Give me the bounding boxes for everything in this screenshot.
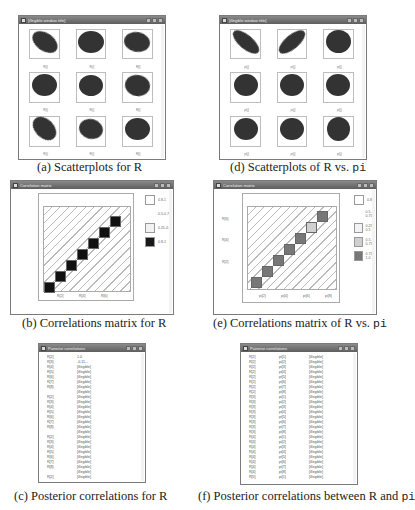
close-button[interactable]: [166, 183, 171, 188]
titlebar: Correlation matrix: [214, 181, 376, 189]
minimize-button[interactable]: [338, 346, 343, 351]
minimize-button[interactable]: [154, 183, 159, 188]
list-cell: [illegible]: [77, 475, 117, 480]
plot-frame: [76, 29, 107, 60]
scatter-points: [234, 118, 258, 140]
scatter-plot: R[i]: [67, 70, 113, 114]
matrix-cells: [43, 206, 131, 292]
x-tick: pi[6]: [303, 294, 310, 298]
maximize-button[interactable]: [344, 346, 349, 351]
legend-swatch: [145, 209, 155, 219]
scatter-points: [123, 29, 152, 53]
minimize-button[interactable]: [357, 183, 362, 188]
legend-swatch: [354, 209, 363, 219]
y-tick: R[4]: [222, 238, 228, 242]
scatterplots-window-a: [illegible window title] R[i]R[i]R[i]R[i…: [18, 15, 166, 160]
scrollbar[interactable]: [161, 25, 164, 158]
close-button[interactable]: [350, 346, 355, 351]
plot-frame: [277, 72, 308, 103]
legend-item: 0.5-0.75: [145, 209, 171, 219]
caption-e: (e) Correlations matrix of R vs. pi: [213, 316, 387, 331]
correlation-matrix-window-e: Correlation matrix pi[2] pi[4] pi[6] pi[…: [213, 180, 377, 315]
scatterplots-window-d: [illegible window title] pi[j]pi[j]pi[j]…: [219, 15, 367, 160]
maximize-button[interactable]: [363, 183, 368, 188]
caption-c: (c) Posterior correlations for R: [14, 489, 167, 504]
scatter-plot: pi[j]: [268, 113, 314, 157]
minimize-button[interactable]: [347, 18, 352, 23]
diagonal-cell: [251, 277, 262, 288]
diagonal-cell: [88, 238, 99, 249]
legend-swatch: [354, 237, 363, 247]
scatter-grid: R[i]R[i]R[i]R[i]R[i]R[i]R[i]R[i]R[i]: [21, 26, 160, 157]
legend-swatch: [354, 195, 364, 205]
matrix-plot-area: pi[2] pi[4] pi[6] pi[8]: [242, 193, 340, 303]
legend-label: 0.8-1: [158, 240, 166, 244]
maximize-button[interactable]: [152, 18, 157, 23]
scrollbar[interactable]: [362, 25, 365, 158]
diagonal-cell: [317, 211, 328, 222]
diagonal-cell: [99, 227, 110, 238]
scrollbar[interactable]: [169, 190, 172, 313]
legend-swatch: [354, 223, 363, 233]
close-button[interactable]: [138, 346, 143, 351]
matrix-cells: [247, 206, 337, 290]
caption-var: R: [134, 160, 142, 174]
maximize-button[interactable]: [353, 18, 358, 23]
x-axis-label: R[i]: [136, 108, 141, 112]
minimize-button[interactable]: [146, 18, 151, 23]
plot-frame: [76, 72, 107, 103]
scatter-plot: R[i]: [21, 70, 67, 114]
scrollbar[interactable]: [353, 353, 356, 483]
legend-swatch: [145, 223, 155, 233]
titlebar: [illegible window title]: [19, 16, 165, 24]
x-axis-label: R[i]: [43, 65, 48, 69]
plot-frame: [230, 72, 261, 103]
scatter-points: [28, 113, 61, 146]
plot-frame: [323, 116, 354, 147]
x-axis-label: pi[j]: [291, 65, 296, 69]
diagonal-cell: [44, 282, 55, 293]
x-axis-label: pi[j]: [337, 65, 342, 69]
maximize-button[interactable]: [132, 346, 137, 351]
scrollbar[interactable]: [141, 353, 144, 481]
minimize-button[interactable]: [126, 346, 131, 351]
x-axis-label: R[i]: [90, 152, 95, 156]
scatter-points: [326, 74, 350, 96]
diagonal-cell: [77, 249, 88, 260]
scatter-plot: pi[j]: [222, 113, 268, 157]
scatter-plot: R[i]: [114, 26, 160, 70]
legend-swatch: [145, 237, 155, 247]
close-button[interactable]: [158, 18, 163, 23]
caption-b: (b) Correlations matrix for R: [22, 316, 166, 331]
x-axis-label: pi[j]: [337, 108, 342, 112]
list-cell: R[2]: [41, 475, 77, 480]
plot-frame: [277, 29, 308, 60]
plot-frame: [230, 29, 261, 60]
diagonal-cell: [55, 271, 66, 282]
caption-a: (a) Scatterplots for R: [37, 160, 142, 175]
scatter-points: [77, 116, 105, 142]
pairwise-correlations-window-f: Pairwise correlations R[2]pi[1][illegibl…: [240, 343, 358, 485]
scatter-plot: R[i]: [114, 113, 160, 157]
correlation-list: R[2]pi[1][illegible]R[2]pi[2][illegible]…: [243, 355, 351, 480]
plot-frame: [277, 116, 308, 147]
plot-frame: [76, 116, 107, 147]
close-button[interactable]: [359, 18, 364, 23]
window-icon: [41, 346, 46, 351]
maximize-button[interactable]: [160, 183, 165, 188]
scatter-points: [280, 74, 304, 96]
titlebar: Correlation matrix: [11, 181, 173, 189]
scatter-grid: pi[j]pi[j]pi[j]pi[j]pi[j]pi[j]pi[j]pi[j]…: [222, 26, 361, 157]
correlation-matrix-window-b: Correlation matrix R[2] R[4] R[6] 0.8-10…: [10, 180, 174, 315]
window-title: [illegible window title]: [28, 18, 145, 23]
scatter-plot: R[i]: [67, 26, 113, 70]
x-axis-label: R[i]: [136, 152, 141, 156]
scrollbar[interactable]: [372, 190, 375, 313]
y-tick: R[6]: [222, 217, 228, 221]
plot-frame: [122, 72, 153, 103]
scatter-points: [327, 117, 350, 141]
caption-f: (f) Posterior correlations between R and…: [198, 489, 415, 504]
legend-item: 0.25-0.5: [145, 223, 171, 233]
plot-frame: [122, 116, 153, 147]
close-button[interactable]: [369, 183, 374, 188]
